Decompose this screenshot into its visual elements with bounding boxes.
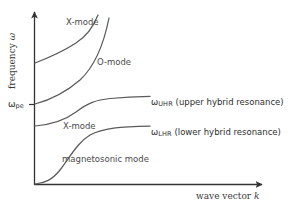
k-symbol-icon: k [254, 191, 259, 201]
y-axis-label: frequency ω [7, 27, 17, 95]
annotation-omode: O-mode [97, 58, 131, 67]
omega-symbol-icon: ω [7, 33, 17, 40]
omega-lhr-text: (lower hybrid resonance) [172, 127, 281, 137]
omega-uhr-text: (upper hybrid resonance) [173, 97, 284, 107]
omega-pe-symbol: ω [8, 99, 16, 109]
dispersion-diagram-figure: frequency ω wave vector k ωpe X-mode O-m… [0, 0, 307, 214]
annotation-xmode-middle: X-mode [63, 122, 96, 131]
omega-pe-subscript: pe [16, 102, 25, 110]
omega-pe-tick-label: ωpe [8, 99, 24, 110]
omega-uhr-subscript: UHR [158, 100, 173, 108]
annotation-lower-hybrid-resonance: ωLHR (lower hybrid resonance) [151, 128, 281, 138]
y-axis-label-text: frequency [7, 43, 17, 89]
annotation-magnetosonic-mode: magnetosonic mode [62, 155, 149, 164]
x-axis-label-text: wave vector [196, 191, 251, 201]
omega-lhr-subscript: LHR [158, 130, 172, 138]
annotation-xmode-upper: X-mode [66, 18, 99, 27]
x-axis-label: wave vector k [196, 191, 259, 201]
annotation-upper-hybrid-resonance: ωUHR (upper hybrid resonance) [151, 98, 284, 108]
